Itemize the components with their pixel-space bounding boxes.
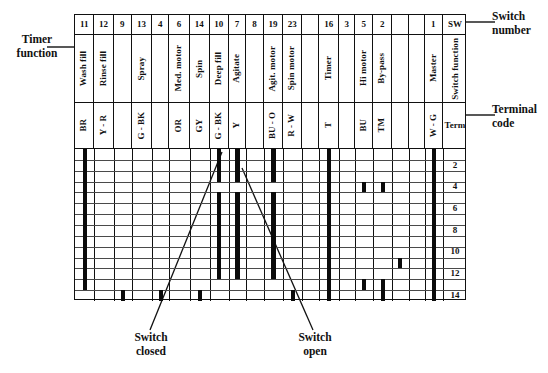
row-number-text: 4: [453, 182, 458, 191]
terminal_code-text: T: [324, 122, 333, 128]
timer_function-cell: [392, 35, 409, 102]
switch-closed-bar: [159, 290, 163, 301]
row-number-text: 8: [453, 226, 458, 235]
timer_function-text: By-pass: [377, 53, 386, 84]
switch-number-callout-label: Switch number: [492, 10, 548, 37]
terminal_code-cell: GY: [190, 103, 210, 148]
grid-row-line: [75, 290, 465, 291]
terminal_code-cell: [339, 103, 355, 148]
timer_function-text: Wash fill: [79, 51, 88, 86]
terminal_code-text: GY: [195, 119, 204, 133]
timer_function-cell: [302, 35, 319, 102]
timer_function-cell: Spray: [132, 35, 153, 102]
terminal-code-callout-label: Terminal code: [492, 103, 548, 130]
timer_function-cell: [409, 35, 425, 102]
timer_function-text: Spray: [137, 57, 146, 81]
switch-closed-bar: [271, 149, 275, 182]
switch-closed-bar: [362, 279, 366, 290]
switch-sequence-grid: 2468101214: [75, 149, 465, 301]
timer_function-cell: Timer: [319, 35, 339, 102]
switch_number-cell: 19: [264, 15, 283, 34]
terminal_code-cell: W - G: [425, 103, 443, 148]
timer_function-cell: Master: [425, 35, 443, 102]
grid-row-line: [75, 225, 465, 226]
timer_function-cell: [114, 35, 132, 102]
timer_function-cell: Agit. motor: [264, 35, 283, 102]
switch_number-cell: 8: [246, 15, 264, 34]
switch_number-cell: 6: [169, 15, 190, 34]
terminal_code-cell: [152, 103, 169, 148]
switch_number-cell: 11: [75, 15, 94, 34]
switch_number-cell: 13: [132, 15, 153, 34]
row-number-text: 12: [450, 269, 459, 278]
grid-row-line: [75, 160, 465, 161]
row-number-cell: 6: [443, 203, 467, 214]
grid-row-line: [75, 268, 465, 269]
switch_number-cell: SW: [443, 15, 467, 34]
grid-row-line: [75, 171, 465, 172]
grid-row-line: [75, 203, 465, 204]
row-number-cell: 12: [443, 268, 467, 279]
timer_function-cell: Switch function: [443, 35, 467, 102]
switch_number-text: 11: [80, 20, 89, 29]
terminal_code-text: Term: [445, 121, 466, 130]
terminal_code-cell: BU: [355, 103, 373, 148]
timer_function-cell: [246, 35, 264, 102]
timer-function-header-row: Wash fillRinse fillSprayMed. motorSpinDe…: [75, 35, 465, 103]
grid-row-line: [75, 182, 465, 183]
row-number-cell: 4: [443, 182, 467, 193]
terminal_code-cell: Term: [443, 103, 467, 148]
timer_function-cell: Wash fill: [75, 35, 94, 102]
switch_number-text: 12: [99, 20, 108, 29]
switch_number-text: 13: [137, 20, 146, 29]
switch-closed-bar: [398, 258, 402, 269]
terminal_code-text: R - W: [287, 114, 296, 137]
terminal_code-text: TM: [377, 118, 386, 133]
row-number-cell: 10: [443, 247, 467, 258]
switch-closed-bar: [362, 182, 366, 193]
switch-closed-bar: [235, 149, 239, 182]
switch_number-cell: [392, 15, 409, 34]
timer_function-cell: Deep fill: [210, 35, 229, 102]
terminal_code-cell: G - BK: [210, 103, 229, 148]
switch-closed-bar: [381, 279, 385, 301]
switch_number-text: 2: [380, 20, 385, 29]
switch_number-text: 23: [288, 20, 297, 29]
switch_number-text: 3: [345, 20, 350, 29]
timer_function-text: Deep fill: [214, 52, 223, 85]
terminal_code-cell: [409, 103, 425, 148]
switch-closed-bar: [381, 182, 385, 193]
row-number-text: 6: [453, 204, 458, 213]
timer_function-cell: Med. motor: [169, 35, 190, 102]
row-number-text: 14: [450, 291, 459, 300]
switch-open-callout-label: Switch open: [274, 331, 356, 358]
grid-row-line: [75, 236, 465, 237]
timer_function-text: Spin motor: [287, 46, 296, 90]
timer_function-cell: Agitate: [229, 35, 247, 102]
terminal_code-text: BU - O: [268, 112, 277, 139]
terminal_code-text: Y: [232, 122, 241, 129]
grid-row-line: [75, 192, 465, 193]
switch-closed-bar: [291, 290, 295, 301]
terminal_code-cell: BU - O: [264, 103, 283, 148]
row-number-text: 10: [450, 247, 459, 256]
terminal_code-cell: [392, 103, 409, 148]
switch-closed-bar: [327, 149, 331, 301]
switch_number-text: 9: [120, 20, 125, 29]
grid-row-line: [75, 247, 465, 248]
switch_number-text: 6: [177, 20, 182, 29]
switch-closed-bar: [235, 192, 239, 279]
switch_number-text: 1: [431, 20, 436, 29]
switch-closed-callout-label: Switch closed: [110, 331, 192, 358]
switch_number-text: 16: [324, 20, 333, 29]
timer_function-text: Agitate: [232, 54, 241, 83]
terminal_code-cell: TM: [373, 103, 392, 148]
timer_function-cell: [152, 35, 169, 102]
grid-row-line: [75, 258, 465, 259]
switch_number-cell: 3: [339, 15, 355, 34]
row-number-text: 2: [453, 161, 458, 170]
switch_number-cell: [409, 15, 425, 34]
grid-row-line: [75, 279, 465, 280]
switch-closed-bar: [217, 149, 221, 182]
terminal_code-cell: T: [319, 103, 339, 148]
